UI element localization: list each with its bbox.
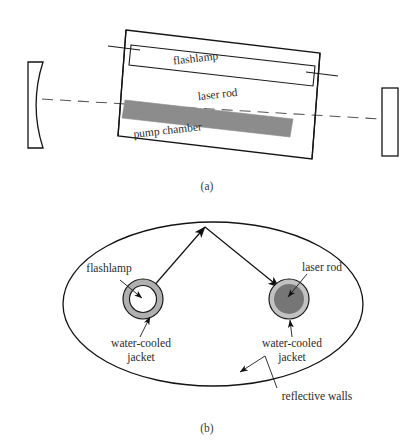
- leader-water-jacket-right: [290, 320, 292, 337]
- output-mirror-flat: [382, 88, 398, 156]
- pump-chamber-left-edge: [118, 30, 126, 136]
- label-water-jacket-right-line2: jacket: [277, 351, 306, 364]
- leader-reflective-walls: [240, 356, 277, 388]
- label-water-jacket-left-line1: water-cooled: [111, 337, 171, 349]
- pump-chamber-right-edge: [312, 53, 320, 159]
- leader-water-jacket-left: [140, 317, 150, 337]
- panel-a-group: flashlamp laser rod pump chamber (a): [28, 30, 398, 193]
- label-pump-chamber-a: pump chamber: [133, 120, 203, 141]
- laser-pump-chamber-figure: flashlamp laser rod pump chamber (a): [0, 0, 416, 443]
- label-laser-rod-a: laser rod: [197, 86, 238, 102]
- laser-rod-core: [274, 284, 304, 314]
- rear-mirror-concave: [28, 62, 43, 148]
- label-water-jacket-left-line2: jacket: [126, 351, 155, 364]
- label-flashlamp-b: flashlamp: [86, 262, 132, 275]
- figure-canvas: flashlamp laser rod pump chamber (a): [0, 0, 416, 443]
- flashlamp-tube-core: [130, 286, 157, 313]
- elliptical-cavity-reflective-walls: [63, 222, 363, 386]
- label-laser-rod-b: laser rod: [302, 261, 342, 273]
- label-flashlamp-a: flashlamp: [172, 49, 219, 67]
- panel-b-group: flashlamp laser rod water-cooled jacket …: [63, 222, 363, 435]
- flashlamp-electrode-right: [306, 72, 338, 76]
- ray-wall-to-laser-rod: [205, 227, 279, 287]
- label-water-jacket-right-line1: water-cooled: [262, 337, 322, 349]
- label-reflective-walls: reflective walls: [282, 390, 353, 402]
- ray-flashlamp-to-wall: [152, 227, 205, 288]
- flashlamp-body: [129, 45, 315, 86]
- caption-panel-a: (a): [201, 180, 214, 193]
- caption-panel-b: (b): [200, 422, 214, 435]
